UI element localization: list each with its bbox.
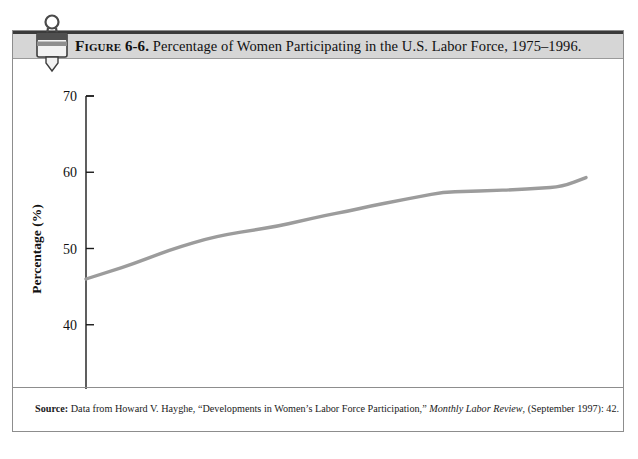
chart-plot-area: 30 40 50 60 70 1975 1980 1985 1990 1996 bbox=[13, 59, 623, 387]
source-journal-name: Monthly Labor Review bbox=[429, 403, 522, 414]
y-axis-title: Percentage (%) bbox=[29, 204, 44, 293]
y-axis-ticks bbox=[86, 96, 94, 389]
source-text-before: Data from Howard V. Hayghe, “Development… bbox=[68, 403, 429, 414]
y-axis-labels: 30 40 50 60 70 bbox=[63, 89, 77, 389]
figure-header-band: Figure 6-6. Percentage of Women Particip… bbox=[13, 31, 623, 59]
data-series-line bbox=[86, 178, 586, 279]
line-chart: 30 40 50 60 70 1975 1980 1985 1990 1996 bbox=[13, 59, 625, 389]
chart-axes bbox=[86, 96, 586, 389]
figure-number: 6-6. bbox=[125, 38, 149, 54]
figure-box: Figure 6-6. Percentage of Women Particip… bbox=[12, 30, 624, 432]
source-text: Source: Data from Howard V. Hayghe, “Dev… bbox=[35, 403, 619, 415]
source-footnote: Source: Data from Howard V. Hayghe, “Dev… bbox=[13, 387, 623, 431]
figure-caption: Percentage of Women Participating in the… bbox=[153, 38, 582, 54]
source-label: Source: bbox=[35, 403, 68, 414]
figure-label: Figure bbox=[75, 37, 121, 54]
y-tick-label: 40 bbox=[63, 318, 77, 333]
y-tick-label: 50 bbox=[63, 242, 77, 257]
source-text-after: , (September 1997): 42. bbox=[523, 403, 619, 414]
y-tick-label: 70 bbox=[63, 89, 77, 104]
y-tick-label: 60 bbox=[63, 165, 77, 180]
figure-title: Figure 6-6. Percentage of Women Particip… bbox=[75, 37, 581, 55]
